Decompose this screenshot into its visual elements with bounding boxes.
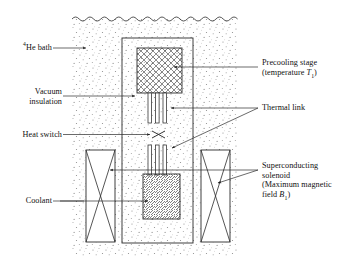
label-thermal-link: Thermal link [262,103,305,113]
label-vacuum-insulation: Vacuum insulation [0,87,62,106]
thermal-link-text: Thermal link [262,103,305,112]
he-bath-text: He bath [26,43,52,52]
solenoid-line4: field B1) [262,190,332,200]
thermal-link-upper [148,93,167,123]
coolant-text: Coolant [26,196,52,205]
label-superconducting-solenoid: Superconducting solenoid (Maximum magnet… [262,161,332,199]
precooling-stage-line2: (temperature T1) [262,68,317,78]
solenoid-line3: (Maximum magnetic [262,180,332,190]
label-precooling-stage: Precooling stage (temperature T1) [262,58,317,77]
precooling-stage-line1: Precooling stage [262,58,317,68]
vacuum-insulation-line1: Vacuum [0,87,62,97]
sample-block [143,174,180,219]
heat-switch-text: Heat switch [23,130,62,139]
solenoid-line2: solenoid [262,171,332,181]
solenoid-left [86,150,115,242]
precooling-stage-block [137,48,182,93]
thermal-link-lower [148,145,167,175]
solenoid-right [201,150,230,242]
label-he-bath: 4He bath [6,43,52,53]
figure-root: 4He bath Vacuum insulation Heat switch C… [0,0,352,266]
solenoid-line1: Superconducting [262,161,332,171]
vacuum-insulation-line2: insulation [0,97,62,107]
label-coolant: Coolant [0,196,52,206]
label-heat-switch: Heat switch [0,130,62,140]
